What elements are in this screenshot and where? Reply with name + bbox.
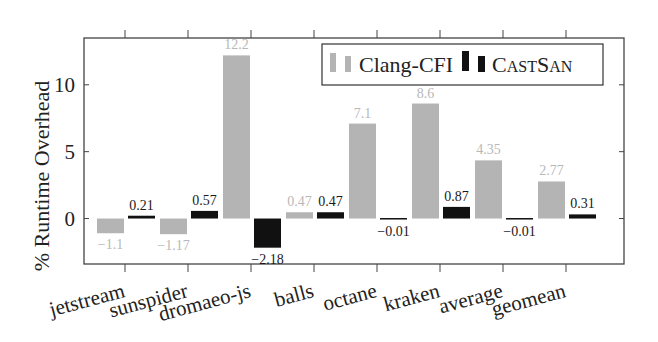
data-label: 8.6 [417,86,435,101]
bar-clang-cfi [160,219,187,235]
bar-clang-cfi [475,160,502,218]
x-tick-label: kraken [381,278,443,316]
bar-chart: −1.10.21−1.170.5712.2−2.180.470.477.1−0.… [0,0,658,342]
bar-castsan [191,211,218,219]
data-label: 0.47 [287,194,312,209]
data-label: 12.2 [224,37,249,52]
data-label: 4.35 [476,142,501,157]
bar-castsan [506,218,533,220]
data-label: 0.57 [192,193,217,208]
x-tick-label: geomean [489,278,569,321]
legend-swatch-castsan [462,51,469,71]
data-label: 0.47 [318,194,343,209]
x-tick-label: octane [320,278,379,315]
data-label: −2.18 [251,252,283,267]
y-tick-label: 0 [65,207,76,231]
y-tick-label: 5 [65,140,76,164]
bar-clang-cfi [223,55,250,218]
data-label: −1.17 [157,238,189,253]
bar-castsan [128,216,155,219]
bar-castsan [569,214,596,218]
bar-castsan [317,212,344,218]
data-label: 0.31 [570,196,595,211]
legend: Clang-CFICASTSAN [322,44,603,85]
data-label: 0.87 [444,189,469,204]
legend-swatch-clang-cfi [330,53,336,72]
bar-castsan [254,219,281,248]
legend-swatch-castsan [478,56,485,72]
data-label: −1.1 [98,237,123,252]
data-label: −0.01 [377,224,409,239]
bar-clang-cfi [412,104,439,219]
data-label: 2.77 [539,163,564,178]
legend-swatch-clang-cfi [345,56,351,72]
bar-clang-cfi [349,124,376,219]
legend-label-clang-cfi: Clang-CFI [359,52,453,77]
y-axis-label: % Runtime Overhead [29,81,54,272]
data-label: 7.1 [354,106,372,121]
data-label: 0.21 [129,198,154,213]
bar-castsan [443,207,470,219]
bar-clang-cfi [97,219,124,234]
bar-clang-cfi [538,181,565,218]
bar-clang-cfi [286,212,313,218]
x-tick-label: balls [272,278,317,311]
bar-castsan [380,218,407,220]
y-tick-label: 10 [54,73,75,97]
data-label: −0.01 [503,224,535,239]
